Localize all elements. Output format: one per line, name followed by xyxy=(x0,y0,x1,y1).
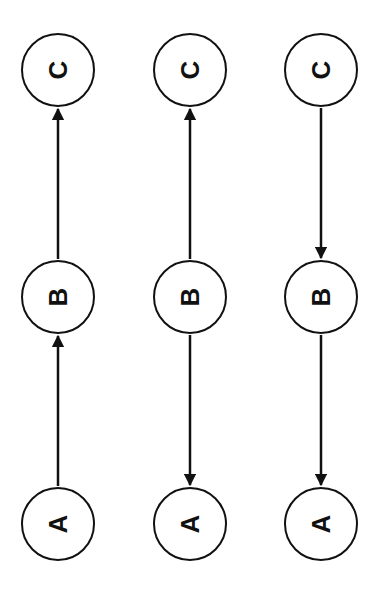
svg-text:C: C xyxy=(306,60,336,79)
causal-chain-diagram: C B A C B A C xyxy=(0,0,383,600)
chain-3: C B A xyxy=(285,34,357,560)
svg-text:B: B xyxy=(43,288,73,307)
svg-text:B: B xyxy=(306,288,336,307)
node-b: B xyxy=(154,261,226,333)
node-a: A xyxy=(285,488,357,560)
node-a: A xyxy=(22,488,94,560)
svg-text:A: A xyxy=(306,514,336,533)
node-c: C xyxy=(154,34,226,106)
svg-text:A: A xyxy=(43,514,73,533)
svg-text:C: C xyxy=(43,60,73,79)
node-a: A xyxy=(154,488,226,560)
node-b: B xyxy=(22,261,94,333)
svg-text:C: C xyxy=(175,60,205,79)
chain-2: C B A xyxy=(154,34,226,560)
node-b: B xyxy=(285,261,357,333)
node-c: C xyxy=(22,34,94,106)
svg-text:A: A xyxy=(175,514,205,533)
node-c: C xyxy=(285,34,357,106)
chain-1: C B A xyxy=(22,34,94,560)
svg-text:B: B xyxy=(175,288,205,307)
